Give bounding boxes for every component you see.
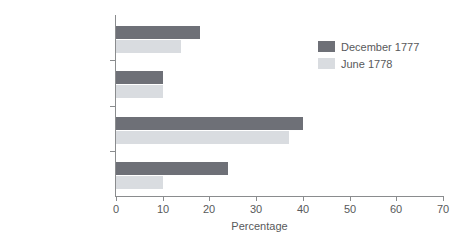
- bar: [116, 162, 228, 175]
- x-axis-title-text: Percentage: [231, 220, 287, 232]
- legend-item: December 1777: [318, 40, 419, 53]
- x-axis-tick-label: 10: [143, 203, 183, 215]
- bar: [116, 26, 200, 39]
- x-axis-title: Percentage: [0, 220, 463, 232]
- bar: [116, 176, 163, 189]
- bar: [116, 85, 163, 98]
- x-axis-line: [115, 196, 444, 197]
- x-axis-tick: [443, 196, 444, 201]
- bar-chart: Percentage December 1777 June 1778 Silks…: [0, 0, 463, 243]
- bar-group: [116, 71, 443, 98]
- x-axis-tick-label: 0: [96, 203, 136, 215]
- y-axis-tick: [110, 151, 115, 152]
- legend-swatch-june-1778: [318, 58, 335, 69]
- legend-item: June 1778: [318, 57, 419, 70]
- x-axis-tick: [350, 196, 351, 201]
- bar: [116, 40, 181, 53]
- x-axis-tick-label: 40: [283, 203, 323, 215]
- x-axis-tick-label: 30: [236, 203, 276, 215]
- y-axis-tick: [110, 106, 115, 107]
- x-axis-tick-label: 20: [189, 203, 229, 215]
- bar: [116, 71, 163, 84]
- bar-group: [116, 117, 443, 144]
- x-axis-tick: [209, 196, 210, 201]
- legend-swatch-december-1777: [318, 41, 335, 52]
- x-axis-tick-label: 60: [376, 203, 416, 215]
- chart-legend: December 1777 June 1778: [318, 40, 419, 74]
- x-axis-tick: [116, 196, 117, 201]
- x-axis-tick: [396, 196, 397, 201]
- y-axis-tick: [110, 60, 115, 61]
- legend-label-december-1777: December 1777: [341, 41, 419, 53]
- legend-label-june-1778: June 1778: [341, 58, 392, 70]
- bar: [116, 117, 303, 130]
- x-axis-tick: [256, 196, 257, 201]
- x-axis-tick-label: 70: [423, 203, 463, 215]
- x-axis-tick: [303, 196, 304, 201]
- bar: [116, 131, 289, 144]
- bar-group: [116, 162, 443, 189]
- x-axis-tick-label: 50: [330, 203, 370, 215]
- x-axis-tick: [163, 196, 164, 201]
